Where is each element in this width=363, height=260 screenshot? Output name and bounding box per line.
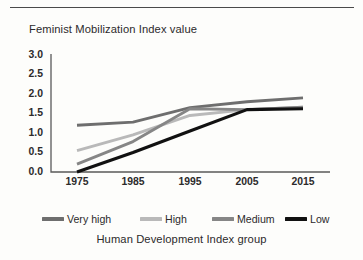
legend-label: Low — [310, 213, 329, 225]
legend-label: High — [165, 213, 187, 225]
legend-item-very-high[interactable]: Very high — [42, 213, 111, 225]
y-tick-label: 0.5 — [13, 146, 43, 157]
y-tick-label: 3.0 — [13, 49, 43, 60]
legend-swatch-icon — [285, 217, 307, 220]
y-tick-label: 2.5 — [13, 68, 43, 79]
y-tick-label: 0.0 — [13, 166, 43, 177]
series-line-very-high — [77, 98, 303, 125]
x-tick-label: 2005 — [225, 176, 269, 187]
x-tick-label: 1985 — [111, 176, 155, 187]
y-tick-label: 1.0 — [13, 127, 43, 138]
legend-item-high[interactable]: High — [140, 213, 187, 225]
legend-swatch-icon — [42, 217, 64, 220]
x-tick-label: 1995 — [168, 176, 212, 187]
legend-item-medium[interactable]: Medium — [212, 213, 275, 225]
series-line-high — [77, 107, 303, 150]
legend-label: Medium — [237, 213, 275, 225]
y-tick-label: 2.0 — [13, 88, 43, 99]
x-axis-title: Human Development Index group — [0, 233, 363, 245]
x-tick-label: 1975 — [55, 176, 99, 187]
axis-spine — [51, 54, 330, 172]
chart-figure: Feminist Mobilization Index value 3.02.5… — [0, 0, 363, 260]
x-tick-label: 2015 — [281, 176, 325, 187]
chart-legend: Very highHighMediumLow — [0, 209, 363, 229]
legend-label: Very high — [67, 213, 111, 225]
legend-swatch-icon — [140, 217, 162, 220]
y-tick-label: 1.5 — [13, 107, 43, 118]
legend-swatch-icon — [212, 217, 234, 220]
legend-item-low[interactable]: Low — [285, 213, 329, 225]
